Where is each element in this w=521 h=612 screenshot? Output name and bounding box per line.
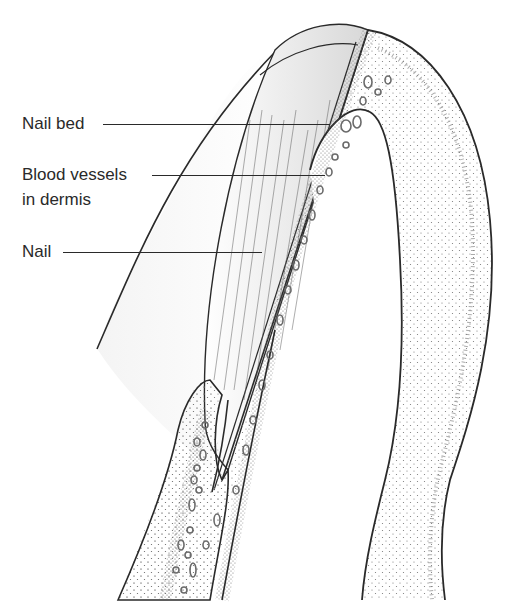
leader-line-nail-bed (103, 124, 330, 125)
label-nail-bed: Nail bed (22, 114, 84, 134)
leader-line-blood-vessels (152, 175, 325, 176)
label-in-dermis: in dermis (22, 190, 91, 210)
leader-line-nail (63, 252, 262, 253)
label-blood-vessels: Blood vessels (22, 165, 127, 185)
nail-anatomy-illustration (0, 0, 521, 612)
label-nail: Nail (22, 242, 51, 262)
